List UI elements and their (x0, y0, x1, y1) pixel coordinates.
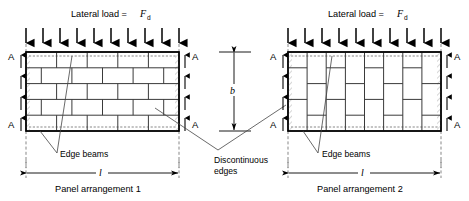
discontinuous-edges-label-line2: edges (214, 166, 237, 176)
panel2-support-label-top-left: A (270, 51, 277, 62)
panel2-load-subscript: d (404, 14, 408, 21)
panel1-body (26, 52, 179, 131)
panel1-support-label-top-left: A (8, 51, 15, 62)
panel1-load-subscript: d (147, 14, 151, 21)
figure-root: Lateral load = F d (0, 0, 469, 201)
panel1-edge-beam-leaders (40, 56, 72, 153)
panel1-caption: Panel arrangement 1 (55, 184, 141, 194)
panel2-caption: Panel arrangement 2 (317, 184, 403, 194)
panel1-load-arrows (26, 28, 179, 43)
panel2-head-joints (307, 52, 422, 131)
panel2-body (288, 52, 441, 131)
panel-arrangement-diagram: Lateral load = F d (0, 0, 469, 201)
panel1-support-label-bottom-left: A (8, 119, 15, 130)
panel1-support-label-top-right: A (192, 51, 199, 62)
discontinuous-edges-leaders (155, 105, 286, 150)
discontinuous-edges-label-line1: Discontinuous (214, 155, 268, 165)
panel2-load-arrows (288, 28, 441, 43)
panel1-load-label: Lateral load = F d (71, 8, 151, 21)
panel1-load-symbol: F (139, 8, 147, 19)
panel2-length-symbol: l (361, 167, 364, 178)
height-dimension: b (219, 52, 251, 131)
panel2-support-label-top-right: A (454, 51, 461, 62)
panel1-length-symbol: l (99, 167, 102, 178)
panel2-load-text: Lateral load = (328, 9, 384, 19)
panel1-length-dimension: l (26, 160, 179, 178)
panel1-load-text: Lateral load = (71, 9, 127, 19)
panel2-length-dimension: l (288, 160, 441, 178)
panel2-support-label-bottom-left: A (270, 119, 277, 130)
panel2-support-label-bottom-right: A (454, 119, 461, 130)
height-symbol: b (230, 85, 235, 96)
panel2-edge-beams-label: Edge beams (322, 149, 370, 159)
panel2-load-symbol: F (396, 8, 404, 19)
panel1-head-joints (41, 52, 163, 131)
panel2-load-label: Lateral load = F d (328, 8, 408, 21)
panel1-edge-beams-label: Edge beams (60, 149, 108, 159)
panel1-support-label-bottom-right: A (192, 119, 199, 130)
